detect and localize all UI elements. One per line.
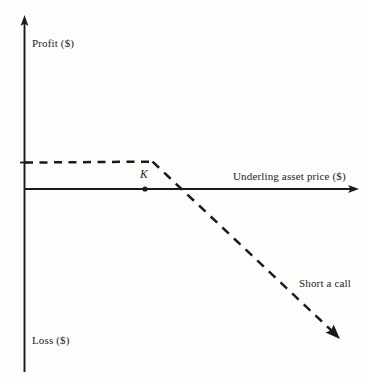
strike-price-marker-dot [142,186,147,191]
x-axis-label: Underling asset price ($) [233,171,346,182]
payoff-diagram-figure: Profit ($) Underling asset price ($) Los… [0,0,367,379]
y-axis-profit-label: Profit ($) [32,38,74,49]
y-axis-loss-label: Loss ($) [32,335,70,346]
payoff-descending-segment [153,162,333,331]
y-axis [21,15,29,372]
series-label-short-call: Short a call [299,278,351,289]
x-axis [25,185,360,193]
payoff-flat-segment [25,162,153,163]
plot-canvas [0,0,367,379]
strike-price-label: K [140,169,148,181]
